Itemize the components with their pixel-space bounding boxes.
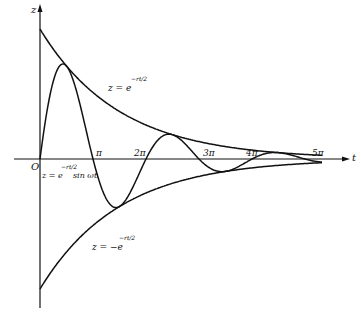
t-axis-arrow-icon bbox=[342, 157, 350, 162]
damped-oscillation-figure: z t O π 2π 3π 4π 5π z = e −rt/2 z = e −r… bbox=[0, 0, 361, 315]
tick-label-3pi: 3π bbox=[203, 149, 215, 158]
upper-envelope-curve bbox=[40, 29, 322, 155]
damped-oscillation-curve bbox=[40, 64, 322, 208]
z-axis-arrow-icon bbox=[38, 4, 43, 12]
tick-label-4pi: 4π bbox=[246, 149, 258, 158]
tick-label-2pi: 2π bbox=[134, 149, 146, 158]
t-axis-label: t bbox=[352, 153, 356, 163]
plot-canvas bbox=[0, 0, 361, 315]
lower-envelope-curve bbox=[40, 163, 322, 289]
tick-label-pi: π bbox=[96, 149, 102, 158]
z-axis-label: z bbox=[31, 5, 36, 15]
tick-label-5pi: 5π bbox=[312, 149, 324, 158]
origin-label: O bbox=[31, 162, 39, 172]
